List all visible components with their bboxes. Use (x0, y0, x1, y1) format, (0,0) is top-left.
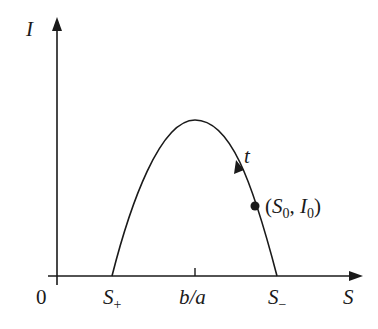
direction-label: t (244, 144, 251, 168)
y-axis-label: I (25, 17, 34, 41)
phase-plane-diagram: I 0 S S+ b/a S− t (S0, I0) (0, 0, 378, 329)
y-axis-arrow-icon (52, 17, 62, 31)
origin-label: 0 (36, 285, 47, 309)
initial-point-label: (S0, I0) (265, 194, 321, 221)
initial-point (251, 202, 260, 211)
tick-label-s-minus: S− (268, 285, 287, 312)
trajectory-curve (112, 120, 277, 276)
x-axis-arrow-icon (349, 271, 363, 281)
x-axis-label: S (343, 285, 354, 309)
tick-label-s-plus: S+ (103, 285, 122, 312)
tick-label-b-over-a: b/a (179, 285, 206, 309)
